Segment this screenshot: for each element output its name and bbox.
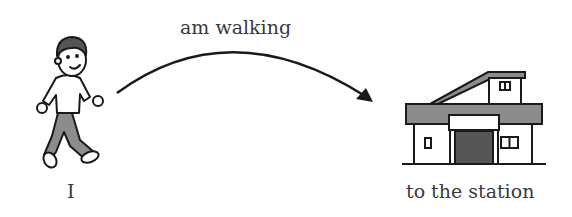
arrow-icon [117,52,373,102]
subject-label: I [67,180,75,202]
destination-label: to the station [406,180,534,202]
walking-boy-icon [37,37,103,170]
station-building-icon [402,72,546,164]
verb-label: am walking [180,16,291,38]
